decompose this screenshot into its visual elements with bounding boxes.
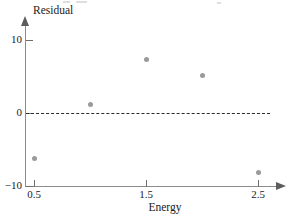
x-axis-title-text: Energy (148, 201, 181, 213)
x-tick-label: 0.5 (14, 189, 54, 200)
x-tick-label: 1.5 (126, 189, 166, 200)
x-axis-line (25, 186, 280, 187)
data-point (256, 170, 261, 175)
crop-artifact (217, 2, 221, 4)
x-tick-mark (258, 180, 259, 187)
data-point (144, 57, 149, 62)
y-axis-arrow-icon (21, 16, 29, 26)
x-axis-title: Energy (0, 201, 292, 213)
residual-plot-figure: Residual Energy 100−10 0.51.52.5 (0, 0, 292, 216)
y-axis-title: Residual (33, 4, 73, 16)
zero-reference-line (26, 113, 270, 114)
y-tick-label: 0 (0, 107, 22, 118)
y-tick-label: 10 (0, 34, 22, 45)
x-tick-label: 2.5 (238, 189, 278, 200)
data-point (32, 156, 37, 161)
x-tick-mark (34, 180, 35, 187)
y-axis-line (25, 24, 26, 187)
crop-artifact (76, 1, 87, 3)
data-point (200, 73, 205, 78)
data-point (88, 102, 93, 107)
x-tick-mark (146, 180, 147, 187)
crop-artifact (63, 1, 70, 3)
y-tick-mark (26, 40, 33, 41)
y-tick-mark (26, 186, 33, 187)
